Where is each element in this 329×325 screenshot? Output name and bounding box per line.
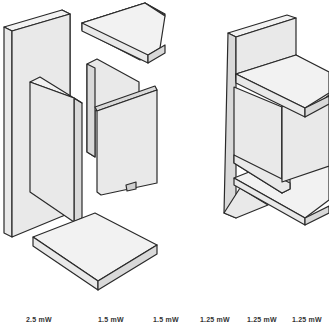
assembled-unit [224,15,329,225]
isometric-diagram [0,0,329,325]
power-label: 1.5 mW [98,316,124,323]
power-label: 1.25 mW [247,316,277,323]
bottom-slab [33,213,157,290]
power-label: 2.5 mW [26,316,52,323]
power-label: 1.25 mW [292,316,322,323]
top-slab [82,3,165,63]
power-label: 1.25 mW [200,316,230,323]
power-labels-row: 2.5 mW 1.5 mW 1.5 mW 1.25 mW 1.25 mW 1.2… [0,316,329,325]
power-label: 1.5 mW [153,316,179,323]
